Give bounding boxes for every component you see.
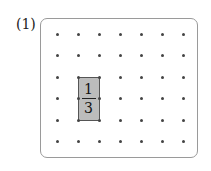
grid-dot xyxy=(161,119,164,122)
grid-dot xyxy=(56,119,59,122)
grid-dot xyxy=(98,119,101,122)
fraction-numerator: 1 xyxy=(84,82,93,96)
grid-dot xyxy=(56,76,59,79)
grid-dot xyxy=(140,54,143,57)
grid-dot xyxy=(182,54,185,57)
grid-dot xyxy=(182,76,185,79)
grid-dot xyxy=(56,54,59,57)
fraction-denominator: 3 xyxy=(84,101,93,115)
grid-dot xyxy=(119,119,122,122)
grid-dot xyxy=(140,76,143,79)
fraction-label: 1 3 xyxy=(78,77,99,120)
grid-dot xyxy=(77,97,80,100)
dot-grid-board xyxy=(40,18,198,158)
grid-dot xyxy=(119,54,122,57)
grid-dot xyxy=(119,76,122,79)
grid-dot xyxy=(119,97,122,100)
grid-dot xyxy=(98,97,101,100)
grid-dot xyxy=(98,76,101,79)
grid-dot xyxy=(161,140,164,143)
grid-dot xyxy=(98,140,101,143)
grid-dot xyxy=(182,97,185,100)
grid-dot xyxy=(161,76,164,79)
grid-dot xyxy=(56,97,59,100)
grid-dot xyxy=(161,97,164,100)
grid-dot xyxy=(77,140,80,143)
grid-dot xyxy=(182,33,185,36)
grid-dot xyxy=(182,140,185,143)
grid-dot xyxy=(56,33,59,36)
grid-dot xyxy=(140,97,143,100)
grid-dot xyxy=(140,140,143,143)
grid-dot xyxy=(140,33,143,36)
grid-dot xyxy=(77,119,80,122)
grid-dot xyxy=(56,140,59,143)
grid-dot xyxy=(77,76,80,79)
grid-dot xyxy=(77,33,80,36)
problem-label: (1) xyxy=(16,16,36,32)
fraction-bar xyxy=(82,98,96,99)
grid-dot xyxy=(161,33,164,36)
grid-dot xyxy=(77,54,80,57)
grid-dot xyxy=(119,140,122,143)
grid-dot xyxy=(119,33,122,36)
grid-dot xyxy=(140,119,143,122)
grid-dot xyxy=(98,54,101,57)
grid-dot xyxy=(182,119,185,122)
grid-dot xyxy=(98,33,101,36)
grid-dot xyxy=(161,54,164,57)
